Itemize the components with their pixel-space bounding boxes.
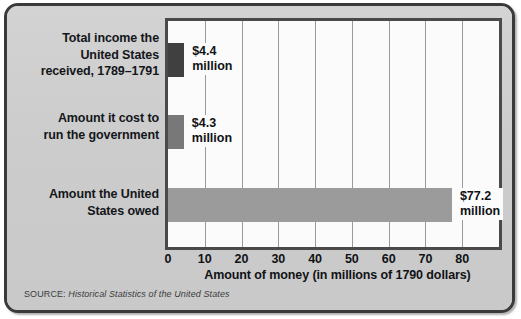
category-label-cost-to-run-government: Amount it cost to run the government bbox=[4, 110, 159, 143]
x-axis-title: Amount of money (in millions of 1790 dol… bbox=[165, 268, 510, 282]
value-amount: $4.3 bbox=[192, 116, 232, 131]
category-label-line: United States bbox=[4, 47, 159, 64]
category-label-line: Amount it cost to bbox=[4, 110, 159, 127]
source-note: SOURCE: Historical Statistics of the Uni… bbox=[24, 289, 230, 299]
x-tick-label: 80 bbox=[455, 252, 469, 266]
chart-card: Total income the United States received,… bbox=[4, 3, 515, 313]
value-label-cost-to-run-government: $4.3 million bbox=[188, 115, 235, 147]
x-tick-label: 40 bbox=[308, 252, 322, 266]
value-amount: $4.4 bbox=[192, 44, 232, 59]
value-unit: million bbox=[460, 204, 500, 219]
x-tick-label: 0 bbox=[165, 252, 172, 266]
value-unit: million bbox=[192, 131, 232, 146]
x-tick-label: 30 bbox=[271, 252, 285, 266]
value-label-total-income: $4.4 million bbox=[188, 43, 235, 75]
x-tick-label: 10 bbox=[198, 252, 212, 266]
plot-area: $4.4 million $4.3 million $77.2 million bbox=[165, 18, 502, 250]
x-tick-label: 70 bbox=[418, 252, 432, 266]
category-label-line: received, 1789–1791 bbox=[4, 63, 159, 80]
bar-amount-owed bbox=[168, 188, 452, 222]
category-label-line: Total income the bbox=[4, 30, 159, 47]
category-label-amount-owed: Amount the United States owed bbox=[4, 186, 159, 219]
category-label-line: run the government bbox=[4, 127, 159, 144]
x-tick-label: 60 bbox=[382, 252, 396, 266]
value-unit: million bbox=[192, 59, 232, 74]
category-label-line: Amount the United bbox=[4, 186, 159, 203]
source-title: Historical Statistics of the United Stat… bbox=[68, 289, 229, 299]
source-label: SOURCE: bbox=[24, 289, 66, 299]
bar-total-income bbox=[168, 43, 184, 77]
value-label-amount-owed: $77.2 million bbox=[456, 188, 503, 220]
value-amount: $77.2 bbox=[460, 189, 500, 204]
x-tick-label: 50 bbox=[345, 252, 359, 266]
x-tick-label: 20 bbox=[235, 252, 249, 266]
category-label-total-income: Total income the United States received,… bbox=[4, 30, 159, 80]
bar-cost-to-run-government bbox=[168, 115, 184, 149]
category-label-line: States owed bbox=[4, 203, 159, 220]
